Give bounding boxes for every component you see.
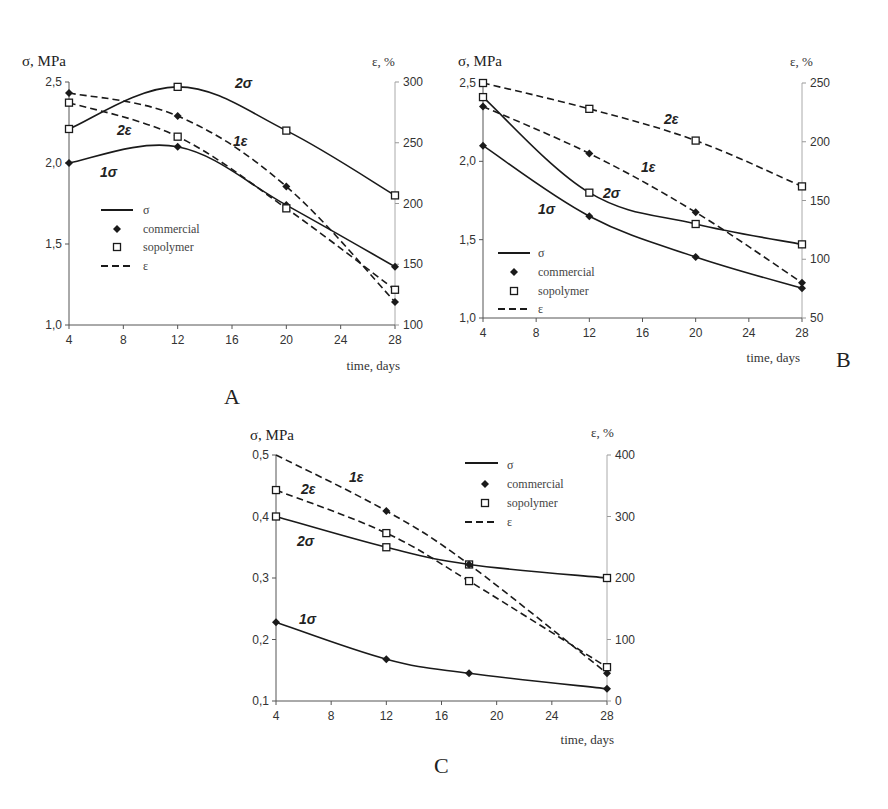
- data-point-square-icon: [480, 94, 487, 101]
- y2-tick-label: 0: [615, 694, 622, 708]
- data-point-diamond-icon: [479, 103, 487, 111]
- y-tick-label: 0,3: [252, 571, 269, 585]
- y2-tick-label: 100: [810, 252, 830, 266]
- curve-label-2sigma: 2σ: [296, 533, 315, 549]
- data-point-square-icon: [799, 183, 806, 190]
- legend-label-epsilon: ε: [538, 302, 543, 316]
- y-axis-title: σ, MPa: [250, 427, 294, 443]
- data-point-square-icon: [383, 530, 390, 537]
- x-tick-label: 8: [328, 709, 335, 723]
- panel-label: C: [434, 753, 449, 778]
- curve-label-2epsilon: 2ε: [300, 481, 316, 497]
- plot-area: 4812162024281,01,52,02,550100150200250: [459, 76, 830, 340]
- x-tick-label: 28: [388, 333, 402, 347]
- legend-label-sigma: σ: [507, 458, 514, 472]
- y-tick-label: 2,0: [45, 156, 62, 170]
- data-point-square-icon: [604, 664, 611, 671]
- curve-label-1sigma: 1σ: [538, 201, 556, 217]
- series-line-1ε: [483, 107, 802, 283]
- x-axis-title: time, days: [747, 350, 800, 365]
- curve-label-1epsilon: 1ε: [641, 159, 656, 175]
- legend-square-icon: [511, 288, 518, 295]
- data-point-diamond-icon: [465, 669, 473, 677]
- x-tick-label: 16: [636, 326, 650, 340]
- y-tick-label: 2,5: [45, 75, 62, 89]
- y-tick-label: 0,5: [252, 448, 269, 462]
- y2-axis-title: ε, %: [372, 54, 395, 69]
- x-tick-label: 4: [273, 709, 280, 723]
- data-point-diamond-icon: [382, 655, 390, 663]
- chart-panel-a: σ, MPa ε, % 4812162024281,01,52,02,51001…: [22, 53, 423, 409]
- x-tick-label: 24: [742, 326, 756, 340]
- data-point-square-icon: [174, 133, 181, 140]
- data-point-diamond-icon: [798, 279, 806, 287]
- data-point-diamond-icon: [174, 112, 182, 120]
- x-tick-label: 24: [334, 333, 348, 347]
- x-tick-label: 4: [66, 333, 73, 347]
- y-tick-label: 1,5: [45, 237, 62, 251]
- y2-axis-title: ε, %: [591, 425, 614, 440]
- y-tick-label: 2,5: [459, 76, 476, 90]
- data-point-square-icon: [66, 125, 73, 132]
- curve-label-1epsilon: 1ε: [349, 469, 364, 485]
- data-point-square-icon: [66, 99, 73, 106]
- data-point-diamond-icon: [65, 159, 73, 167]
- y2-tick-label: 200: [615, 571, 635, 585]
- data-point-diamond-icon: [174, 143, 182, 151]
- figure-canvas: σ, MPa ε, % 4812162024281,01,52,02,51001…: [0, 0, 888, 809]
- legend-label-sopolymer: sopolymer: [507, 496, 558, 510]
- data-point-square-icon: [692, 137, 699, 144]
- data-point-diamond-icon: [603, 685, 611, 693]
- x-tick-label: 16: [225, 333, 239, 347]
- legend-label-epsilon: ε: [507, 515, 512, 529]
- panel-label: B: [836, 347, 851, 372]
- legend-label-sigma: σ: [538, 246, 545, 260]
- data-point-diamond-icon: [692, 208, 700, 216]
- x-tick-label: 8: [533, 326, 540, 340]
- data-point-square-icon: [480, 80, 487, 87]
- legend-diamond-icon: [481, 480, 489, 488]
- curve-label-1sigma: 1σ: [299, 611, 317, 627]
- data-point-square-icon: [466, 578, 473, 585]
- x-tick-label: 20: [280, 333, 294, 347]
- y-tick-label: 0,4: [252, 510, 269, 524]
- y-tick-label: 2,0: [459, 154, 476, 168]
- data-point-square-icon: [586, 105, 593, 112]
- x-tick-label: 16: [435, 709, 449, 723]
- data-point-diamond-icon: [692, 253, 700, 261]
- data-point-diamond-icon: [272, 618, 280, 626]
- x-tick-label: 20: [490, 709, 504, 723]
- y2-tick-label: 250: [403, 136, 423, 150]
- y2-tick-label: 100: [615, 633, 635, 647]
- y2-tick-label: 150: [403, 257, 423, 271]
- y2-tick-label: 300: [403, 75, 423, 89]
- curve-label-2sigma: 2σ: [234, 75, 253, 91]
- y2-axis-title: ε, %: [790, 54, 813, 69]
- y-axis-title: σ, MPa: [458, 53, 502, 69]
- chart-panel-b: σ, MPa ε, % 4812162024281,01,52,02,55010…: [458, 53, 851, 372]
- x-tick-label: 12: [583, 326, 597, 340]
- legend-label-sopolymer: sopolymer: [143, 240, 194, 254]
- legend-diamond-icon: [510, 268, 518, 276]
- panel-label: A: [224, 384, 240, 409]
- x-tick-label: 4: [480, 326, 487, 340]
- x-tick-label: 12: [171, 333, 185, 347]
- y2-tick-label: 50: [810, 311, 824, 325]
- x-tick-label: 20: [689, 326, 703, 340]
- legend-square-icon: [482, 500, 489, 507]
- series-line-2σ: [276, 517, 607, 579]
- series-line-1σ: [276, 622, 607, 688]
- y2-tick-label: 250: [810, 76, 830, 90]
- curve-label-1epsilon: 1ε: [233, 133, 248, 149]
- legend-label-commercial: commercial: [143, 222, 200, 236]
- curve-label-2epsilon: 2ε: [663, 111, 679, 127]
- legend-label-sigma: σ: [143, 203, 150, 217]
- legend-label-sopolymer: sopolymer: [538, 284, 589, 298]
- legend-diamond-icon: [113, 225, 121, 233]
- legend: σ commercial sopolymer ε: [465, 458, 564, 529]
- x-tick-label: 28: [600, 709, 614, 723]
- legend-label-epsilon: ε: [143, 259, 148, 273]
- x-tick-label: 28: [795, 326, 809, 340]
- x-tick-label: 8: [120, 333, 127, 347]
- y-tick-label: 1,0: [45, 318, 62, 332]
